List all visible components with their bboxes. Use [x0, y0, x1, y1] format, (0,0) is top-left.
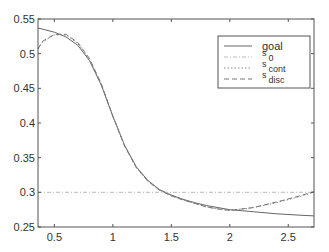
y-tick-label: 0.4	[20, 117, 35, 129]
y-tick-label: 0.45	[14, 82, 35, 94]
x-tick-label: 0.5	[47, 231, 62, 243]
x-tick-label: 2.5	[281, 231, 296, 243]
y-tick-label: 0.25	[14, 221, 35, 233]
y-tick-label: 0.35	[14, 152, 35, 164]
y-tick-label: 0.3	[20, 186, 35, 198]
y-tick-label: 0.5	[20, 48, 35, 60]
x-tick-label: 1	[110, 231, 116, 243]
legend: goals0scontsdisc	[218, 36, 310, 88]
x-tick-label: 2	[227, 231, 233, 243]
y-tick-label: 0.55	[14, 13, 35, 25]
x-tick-label: 1.5	[164, 231, 179, 243]
line-chart: 0.511.522.5 0.250.30.350.40.450.50.55 go…	[0, 0, 329, 252]
